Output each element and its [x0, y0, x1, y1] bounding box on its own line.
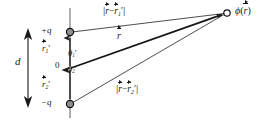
label-positive-charge: +q [41, 26, 52, 35]
charge-marker-negative [66, 100, 73, 107]
label-position-vector-r: r [117, 31, 121, 41]
field-point-marker [224, 10, 230, 16]
label-source-vector-2: r2′ [42, 80, 50, 90]
label-angle-theta1: θ1′ [68, 49, 77, 59]
label-distance-to-negative-charge: |r−r2′| [116, 83, 138, 96]
label-source-vector-1: r1′ [42, 44, 50, 54]
label-angle-theta2: θ2′ [68, 65, 77, 75]
label-negative-charge: −q [41, 98, 52, 107]
dipole-potential-figure: +q −q 0 d r1′ r2′ θ1′ θ2′ r |r−r1′| |r−r… [0, 0, 269, 120]
label-potential-at-field-point: ϕ(r) [235, 6, 251, 16]
label-distance-to-positive-charge: |r−r1′| [103, 5, 125, 18]
label-separation-d: d [15, 56, 21, 67]
charge-marker-positive [66, 28, 73, 35]
label-origin: 0 [55, 61, 60, 70]
